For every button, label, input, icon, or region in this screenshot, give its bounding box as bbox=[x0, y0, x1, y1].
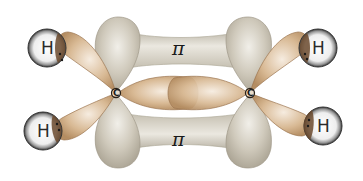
svg-text:C: C bbox=[113, 88, 120, 98]
pi-label-top: π bbox=[171, 37, 185, 59]
svg-text:C: C bbox=[247, 88, 254, 98]
hydrogen-atom-bottom-right: H bbox=[304, 107, 342, 145]
hydrogen-atom-top-right: H bbox=[299, 29, 337, 67]
svg-text:H: H bbox=[37, 121, 50, 141]
hydrogen-atom-top-left: H bbox=[28, 29, 66, 67]
pi-label-bottom: π bbox=[171, 128, 185, 150]
hydrogen-atom-bottom-left: H bbox=[24, 112, 62, 150]
svg-text:H: H bbox=[317, 116, 330, 136]
carbon-atom-right: C bbox=[246, 88, 255, 98]
carbon-atom-left: C bbox=[112, 88, 121, 98]
ethylene-orbital-diagram: π π C C H H H bbox=[0, 0, 363, 181]
svg-text:H: H bbox=[312, 38, 325, 58]
sigma-cc-bond bbox=[118, 76, 248, 110]
svg-text:H: H bbox=[41, 38, 54, 58]
